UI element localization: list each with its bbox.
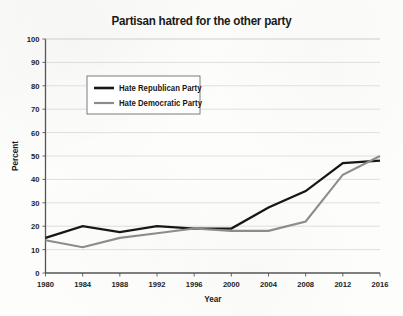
- x-axis-tick-label: 1980: [37, 280, 54, 289]
- y-axis-tick-label: 70: [31, 105, 39, 114]
- y-axis-tick-label: 0: [35, 269, 39, 278]
- x-axis-tick-label: 2004: [260, 280, 278, 289]
- x-axis-tick-label: 2012: [334, 280, 351, 289]
- data-series-line: [46, 156, 381, 247]
- x-axis-tick-label: 2008: [297, 280, 314, 289]
- y-axis-tick-label: 60: [31, 129, 39, 138]
- x-axis-ticks-group: 1980198419881992199620002004200820122016: [37, 273, 388, 289]
- data-series-group: [46, 156, 381, 247]
- x-axis-title: Year: [204, 295, 222, 304]
- y-axis-tick-label: 100: [27, 35, 40, 44]
- y-axis-tick-label: 10: [31, 246, 39, 255]
- y-axis-tick-label: 50: [31, 152, 39, 161]
- x-axis-tick-label: 1996: [186, 280, 203, 289]
- x-axis-tick-label: 2000: [223, 280, 240, 289]
- y-axis-tick-label: 20: [31, 222, 39, 231]
- chart-figure: Partisan hatred for the other party 0102…: [0, 0, 403, 316]
- x-axis-tick-label: 2016: [372, 280, 389, 289]
- y-axis-tick-label: 90: [31, 58, 39, 67]
- x-axis-tick-label: 1984: [74, 280, 92, 289]
- y-axis-tick-label: 40: [31, 175, 39, 184]
- legend-label: Hate Democratic Party: [119, 99, 203, 108]
- y-axis-tick-label: 80: [31, 82, 39, 91]
- y-axis-ticks-group: 0102030405060708090100: [27, 35, 46, 278]
- x-axis-tick-label: 1992: [149, 280, 166, 289]
- gridlines-group: [46, 39, 381, 250]
- chart-plot-area: 0102030405060708090100 19801984198819921…: [0, 0, 403, 316]
- chart-legend: Hate Republican PartyHate Democratic Par…: [87, 76, 203, 114]
- legend-label: Hate Republican Party: [119, 84, 202, 93]
- y-axis-title: Percent: [11, 141, 20, 171]
- x-axis-tick-label: 1988: [111, 280, 128, 289]
- y-axis-tick-label: 30: [31, 199, 39, 208]
